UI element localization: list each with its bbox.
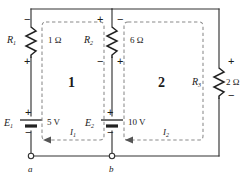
- node-b-label: b: [109, 165, 114, 174]
- circuit-schematic-svg: [0, 0, 241, 188]
- wire-group: [31, 9, 219, 156]
- e2-polarity-bottom: −: [107, 127, 113, 138]
- resistor-r3-symbol: [214, 68, 224, 99]
- current-i2-subscript: 2: [166, 132, 169, 138]
- r3-label: R3: [192, 77, 201, 87]
- loop-2-current-arrowhead: [125, 137, 133, 144]
- r2-polarity-top-left: +: [97, 14, 103, 25]
- loop-1-label: 1: [68, 76, 75, 90]
- node-a-label: a: [28, 165, 33, 174]
- r1-value: 1 Ω: [48, 36, 61, 45]
- r3-polarity-bottom: −: [228, 90, 234, 101]
- r2-subscript: 2: [90, 40, 93, 46]
- r3-subscript: 3: [198, 82, 201, 88]
- loop-2-label: 2: [158, 76, 165, 90]
- e2-value: 10 V: [128, 118, 146, 127]
- e1-polarity-top: +: [25, 107, 31, 118]
- node-b-terminal: [109, 153, 114, 158]
- e2-subscript: 2: [91, 123, 94, 129]
- resistor-r2-symbol: [107, 27, 117, 58]
- r1-polarity-top: −: [24, 14, 30, 25]
- resistor-r1-symbol: [26, 27, 36, 58]
- e1-label: E1: [4, 118, 13, 128]
- r2-polarity-top-right: −: [117, 14, 123, 25]
- loop-1-current-arrowhead: [43, 137, 51, 144]
- r1-polarity-bottom: +: [24, 56, 30, 67]
- r1-label: R1: [7, 35, 16, 45]
- current-i1-label: I1: [70, 128, 76, 137]
- e1-subscript: 1: [10, 123, 13, 129]
- r3-polarity-top: +: [228, 56, 234, 67]
- current-i2-label: I2: [163, 128, 169, 137]
- r2-polarity-bottom-left: −: [97, 56, 103, 67]
- r2-label: R2: [84, 35, 93, 45]
- r3-value: 2 Ω: [226, 78, 239, 87]
- e2-polarity-top: +: [107, 107, 113, 118]
- e1-polarity-bottom: −: [25, 127, 31, 138]
- circuit-diagram: − R1 + 1 Ω + − R2 − + 6 Ω + R3 − 2 Ω + E…: [0, 0, 241, 188]
- r2-polarity-bottom-right: +: [117, 56, 123, 67]
- battery-e1-symbol: [20, 120, 42, 126]
- e2-label: E2: [85, 118, 94, 128]
- r1-subscript: 1: [13, 40, 16, 46]
- current-i1-subscript: 1: [73, 132, 76, 138]
- node-a-terminal: [28, 153, 33, 158]
- r2-value: 6 Ω: [130, 36, 143, 45]
- e1-value: 5 V: [47, 118, 60, 127]
